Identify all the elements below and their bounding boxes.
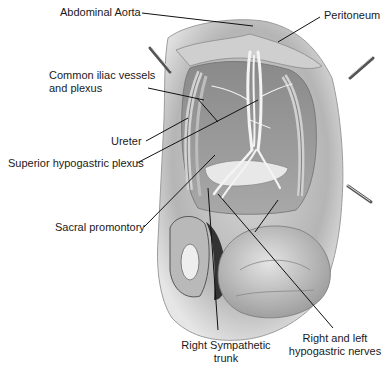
bowel-loops: [218, 226, 330, 318]
anatomy-illustration: [0, 0, 387, 367]
label-abdominal-aorta: Abdominal Aorta: [60, 6, 141, 19]
label-common-iliac-line1: Common iliac vessels: [49, 69, 155, 82]
label-right-sympathetic-line2: trunk: [171, 352, 281, 365]
label-hypogastric-nerves-line1: Right and left: [285, 332, 385, 345]
label-common-iliac-line2: and plexus: [49, 82, 155, 95]
label-ureter: Ureter: [111, 135, 142, 148]
label-right-sympathetic-line1: Right Sympathetic: [171, 339, 281, 352]
ovary: [181, 244, 199, 280]
label-hypogastric-nerves-line2: hypogastric nerves: [285, 345, 385, 358]
label-superior-hypogastric-plexus: Superior hypogastric plexus: [8, 157, 144, 170]
label-peritoneum: Peritoneum: [324, 9, 380, 22]
label-hypogastric-nerves: Right and left hypogastric nerves: [285, 332, 385, 358]
label-common-iliac: Common iliac vessels and plexus: [49, 69, 155, 95]
label-right-sympathetic-trunk: Right Sympathetic trunk: [171, 339, 281, 365]
label-sacral-promontory: Sacral promontory: [55, 221, 145, 234]
